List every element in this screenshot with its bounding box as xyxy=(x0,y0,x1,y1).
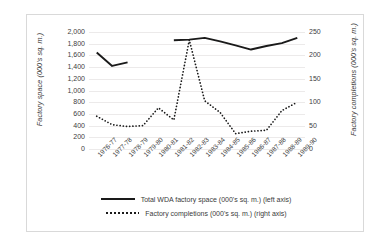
y-tick-right: 250 xyxy=(309,28,321,36)
x-axis-ticks: 1976-771977-781978-791979-801980-811981-… xyxy=(89,151,305,197)
series-lines xyxy=(89,32,305,149)
y-tick-left: 600 xyxy=(45,110,85,118)
legend-solid-line-icon xyxy=(101,195,135,203)
legend-item-label: Total WDA factory space (000's sq. m.) (… xyxy=(141,196,292,203)
y-axis-right-title: Factory completions (000's sq. m.) xyxy=(349,21,358,139)
chart-container: Factory space (000's sq. m.) Factory com… xyxy=(26,14,364,232)
legend-dotted-line-icon xyxy=(105,209,139,217)
wda-factory-space-line xyxy=(174,38,297,50)
y-tick-left: 200 xyxy=(45,133,85,141)
y-tick-left: 1,800 xyxy=(45,40,85,48)
legend-item[interactable]: Factory completions (000's sq. m.) (righ… xyxy=(105,209,286,217)
y-tick-right: 50 xyxy=(309,122,317,130)
y-tick-right: 150 xyxy=(309,75,321,83)
y-tick-left: 1,200 xyxy=(45,75,85,83)
y-tick-left: 1,000 xyxy=(45,87,85,95)
y-axis-left-title: Factory space (000's sq. m.) xyxy=(35,21,44,139)
y-axis-left-ticks: 2,0001,8001,6001,4001,2001,0008006004002… xyxy=(45,28,85,153)
y-tick-left: 0 xyxy=(45,145,85,153)
factory-completions-line xyxy=(97,40,298,134)
y-axis-right-ticks: 250200150100500 xyxy=(309,28,339,153)
y-tick-left: 800 xyxy=(45,98,85,106)
y-tick-right: 200 xyxy=(309,51,321,59)
y-tick-right: 100 xyxy=(309,98,321,106)
wda-factory-space-line xyxy=(97,52,128,65)
y-tick-left: 2,000 xyxy=(45,28,85,36)
chart-legend: Total WDA factory space (000's sq. m.) (… xyxy=(27,195,365,217)
y-tick-left: 400 xyxy=(45,122,85,130)
plot-area xyxy=(89,32,305,149)
y-tick-left: 1,600 xyxy=(45,51,85,59)
legend-item-label: Factory completions (000's sq. m.) (righ… xyxy=(145,210,286,217)
legend-item[interactable]: Total WDA factory space (000's sq. m.) (… xyxy=(101,195,292,203)
y-tick-left: 1,400 xyxy=(45,63,85,71)
